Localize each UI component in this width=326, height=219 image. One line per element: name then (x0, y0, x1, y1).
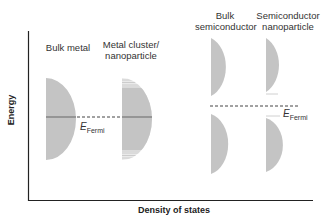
label-bulk-metal: Bulk metal (38, 42, 98, 53)
label-bulk-semiconductor: Bulk semiconductor (195, 10, 255, 32)
fermi-label-semi: EFermi (283, 108, 308, 123)
bulk-metal-band (46, 78, 76, 160)
bulk-semi-conduction-bottom (211, 114, 228, 174)
fermi-label-metal: EFermi (80, 121, 105, 136)
metal-cluster-band (122, 78, 162, 160)
label-metal-cluster: Metal cluster/ nanoparticle (96, 39, 166, 61)
label-semiconductor-nanoparticle: Semiconductor nanoparticle (250, 10, 326, 32)
dos-diagram (0, 0, 326, 219)
y-axis-label: Energy (6, 95, 16, 126)
x-axis-label: Density of states (138, 205, 210, 215)
bulk-semi-valence-top (211, 38, 226, 96)
semi-nanoparticle-band (266, 38, 283, 172)
